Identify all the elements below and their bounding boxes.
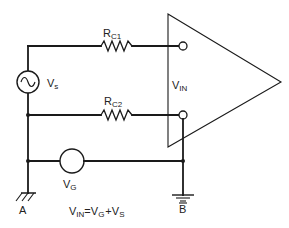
ground-b-label: B	[179, 203, 186, 215]
junction-dot-right-bottom	[181, 159, 185, 163]
vg-source	[60, 149, 84, 173]
rc2-label: RC2	[104, 95, 123, 109]
vin-label: VIN	[172, 79, 188, 93]
vg-label: VG	[63, 178, 77, 192]
equation-text: VIN=VG+VS	[69, 205, 124, 219]
amplifier-triangle	[168, 14, 281, 147]
vs-label: Vs	[47, 77, 58, 91]
junction-dot-left-bottom	[26, 159, 30, 163]
ground-a-icon	[16, 193, 36, 201]
circuit-diagram: RC1 RC2 Vs VIN VG A B VIN=VG+VS	[0, 0, 289, 228]
resistor-rc2	[101, 110, 132, 120]
rc1-label: RC1	[103, 27, 122, 41]
ground-a-label: A	[19, 204, 27, 216]
resistor-rc1	[101, 41, 132, 51]
junction-dot-left-mid	[26, 113, 30, 117]
input-terminal-minus	[179, 111, 187, 119]
input-terminal-plus	[179, 42, 187, 50]
